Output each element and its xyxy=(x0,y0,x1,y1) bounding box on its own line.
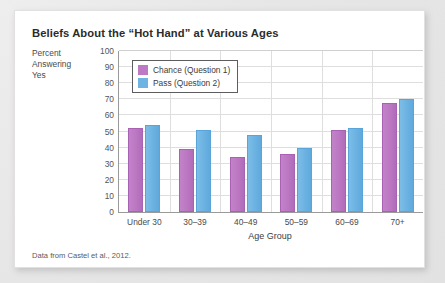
page-background: Beliefs About the “Hot Hand” at Various … xyxy=(0,0,445,283)
y-axis-tick-label: 0 xyxy=(109,207,114,217)
legend-label-pass: Pass (Question 2) xyxy=(153,78,220,88)
bar-chance[interactable] xyxy=(128,128,143,212)
x-axis-tick-label: 70+ xyxy=(391,217,405,227)
legend-swatch-pass-icon xyxy=(138,78,148,88)
bars-row xyxy=(271,51,322,212)
bar-pass[interactable] xyxy=(297,148,312,212)
y-axis-tick-label: 60 xyxy=(105,110,114,120)
y-axis-tick-label: 80 xyxy=(105,78,114,88)
y-axis-tick-label: 40 xyxy=(105,143,114,153)
bar-group: 50–59 xyxy=(271,51,322,212)
y-axis-tick-label: 90 xyxy=(105,62,114,72)
bar-chance[interactable] xyxy=(230,157,245,212)
bar-chance[interactable] xyxy=(280,154,295,212)
bars-row xyxy=(322,51,373,212)
figure-card: Beliefs About the “Hot Hand” at Various … xyxy=(14,10,425,268)
x-axis-title: Age Group xyxy=(118,231,422,241)
bar-pass[interactable] xyxy=(247,135,262,212)
chart-legend: Chance (Question 1) Pass (Question 2) xyxy=(132,60,238,93)
bar-chance[interactable] xyxy=(331,130,346,212)
y-axis-tick-label: 50 xyxy=(105,127,114,137)
x-axis-tick-label: 30–39 xyxy=(183,217,206,227)
y-axis-tick-label: 100 xyxy=(100,46,114,56)
bar-pass[interactable] xyxy=(348,128,363,212)
figure-title: Beliefs About the “Hot Hand” at Various … xyxy=(32,27,279,39)
y-axis-tick-label: 20 xyxy=(105,175,114,185)
bars-row xyxy=(372,51,423,212)
y-axis-tick-label: 70 xyxy=(105,94,114,104)
bar-group: 70+ xyxy=(372,51,423,212)
y-axis-caption-line-1: Percent xyxy=(32,48,92,59)
y-axis-tick-label: 30 xyxy=(105,159,114,169)
y-axis-caption-line-3: Yes xyxy=(32,70,92,81)
bar-chance[interactable] xyxy=(382,103,397,212)
legend-item-pass: Pass (Question 2) xyxy=(138,78,230,88)
source-note: Data from Castel et al., 2012. xyxy=(32,251,131,260)
bar-chance[interactable] xyxy=(179,149,194,212)
legend-swatch-chance-icon xyxy=(138,65,148,75)
bar-pass[interactable] xyxy=(399,99,414,213)
y-axis-caption-line-2: Answering xyxy=(32,59,92,70)
bar-pass[interactable] xyxy=(145,125,160,212)
y-axis-tick-label: 10 xyxy=(105,191,114,201)
x-axis-tick-label: 60–69 xyxy=(335,217,358,227)
x-axis-tick-label: Under 30 xyxy=(127,217,161,227)
y-axis-caption: Percent Answering Yes xyxy=(32,48,92,82)
legend-label-chance: Chance (Question 1) xyxy=(153,65,230,75)
plot-area: 0102030405060708090100Under 3030–3940–49… xyxy=(118,51,423,213)
legend-item-chance: Chance (Question 1) xyxy=(138,65,230,75)
x-axis-tick-label: 50–59 xyxy=(285,217,308,227)
bar-group: 60–69 xyxy=(322,51,373,212)
bar-pass[interactable] xyxy=(196,130,211,212)
x-axis-tick-label: 40–49 xyxy=(234,217,257,227)
